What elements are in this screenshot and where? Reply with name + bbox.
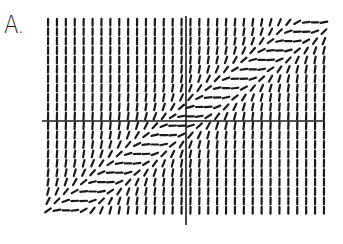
slope-segment bbox=[137, 104, 138, 111]
slope-segment bbox=[187, 125, 194, 127]
slope-segment bbox=[90, 170, 95, 175]
slope-segment bbox=[232, 68, 238, 71]
slope-segment bbox=[181, 57, 182, 64]
slope-segment bbox=[285, 31, 291, 33]
slope-segment bbox=[241, 87, 247, 90]
slope-segment bbox=[172, 75, 173, 82]
slope-segment bbox=[109, 198, 112, 204]
slope-segment bbox=[217, 38, 218, 45]
slope-segment bbox=[188, 95, 192, 100]
slope-segment bbox=[304, 48, 307, 54]
slope-segment bbox=[146, 94, 147, 101]
slope-segment bbox=[143, 144, 150, 145]
slope-segment bbox=[152, 153, 158, 155]
slope-segment bbox=[296, 57, 299, 63]
slope-segment bbox=[180, 142, 184, 148]
slope-segment bbox=[235, 132, 236, 139]
slope-segment bbox=[243, 104, 245, 111]
slope-segment bbox=[197, 123, 202, 128]
slope-segment bbox=[215, 76, 220, 81]
slope-segment bbox=[118, 132, 120, 139]
slope-segment bbox=[89, 200, 95, 202]
slope-segment bbox=[125, 153, 131, 155]
slope-segment bbox=[235, 28, 236, 35]
slope-segment bbox=[128, 104, 129, 111]
slope-segment bbox=[313, 38, 317, 43]
slope-segment bbox=[146, 85, 147, 92]
slope-segment bbox=[57, 160, 58, 167]
slope-segment bbox=[63, 200, 69, 202]
slope-segment bbox=[196, 116, 203, 117]
slope-segment bbox=[286, 57, 291, 62]
slope-segment bbox=[134, 170, 139, 174]
slope-segment bbox=[268, 39, 274, 43]
slope-segment bbox=[235, 19, 236, 26]
slope-segment bbox=[90, 208, 94, 213]
slope-segment bbox=[81, 180, 86, 184]
slope-segment bbox=[270, 19, 272, 26]
slope-segment bbox=[172, 94, 174, 101]
slope-segment bbox=[199, 57, 200, 64]
slope-segment bbox=[108, 161, 114, 165]
slope-segment bbox=[261, 122, 262, 129]
slope-segment bbox=[162, 114, 166, 120]
slope-segment bbox=[323, 47, 325, 54]
slope-segment bbox=[242, 95, 246, 101]
slope-segment bbox=[198, 75, 200, 82]
slope-segment bbox=[276, 40, 283, 41]
slope-segment bbox=[267, 50, 274, 51]
slope-segment bbox=[278, 66, 282, 72]
slope-segment bbox=[145, 179, 147, 186]
slope-segment bbox=[154, 169, 156, 175]
slope-segment bbox=[101, 141, 102, 148]
slope-segment bbox=[180, 94, 183, 100]
slope-segment bbox=[270, 85, 272, 92]
slope-segment bbox=[169, 135, 176, 136]
slope-segment bbox=[162, 160, 165, 166]
slope-segment bbox=[297, 94, 298, 101]
slope-segment bbox=[46, 198, 49, 204]
slope-segment bbox=[323, 57, 324, 64]
slope-segment bbox=[250, 78, 256, 80]
slope-segment bbox=[207, 66, 209, 73]
slope-segment bbox=[134, 143, 140, 146]
slope-segment bbox=[136, 179, 139, 185]
slope-segment bbox=[74, 169, 76, 176]
slope-segment bbox=[296, 66, 298, 73]
slope-segment bbox=[48, 169, 49, 176]
slope-segment bbox=[243, 28, 244, 35]
slope-segment bbox=[277, 29, 282, 34]
slope-segment bbox=[232, 88, 239, 89]
slope-segment bbox=[260, 38, 264, 44]
slope-segment bbox=[100, 207, 103, 213]
slope-segment bbox=[48, 179, 49, 186]
slope-segment bbox=[48, 160, 49, 167]
slope-segment bbox=[190, 57, 191, 64]
slope-segment bbox=[243, 122, 244, 129]
slope-segment bbox=[100, 160, 104, 166]
slope-segment bbox=[83, 160, 85, 167]
slope-segment bbox=[252, 113, 253, 120]
slope-segment bbox=[91, 160, 93, 166]
slope-segment bbox=[128, 113, 129, 120]
slope-segment bbox=[145, 104, 146, 111]
slope-segment bbox=[321, 22, 328, 23]
slope-segment bbox=[303, 22, 310, 23]
slope-segment bbox=[178, 116, 185, 117]
slope-segment bbox=[208, 57, 209, 64]
slope-segment bbox=[226, 38, 227, 45]
slope-segment bbox=[269, 76, 272, 82]
slope-segment bbox=[127, 132, 129, 138]
slope-segment bbox=[74, 151, 75, 158]
slope-segment bbox=[83, 141, 84, 148]
slope-segment bbox=[288, 94, 289, 101]
slope-segment bbox=[116, 163, 123, 164]
slope-segment bbox=[127, 188, 129, 194]
slope-segment bbox=[137, 198, 138, 205]
slope-segment bbox=[294, 41, 301, 42]
slope-segment bbox=[163, 85, 164, 92]
slope-segment bbox=[80, 191, 87, 192]
slope-segment bbox=[234, 38, 235, 45]
slope-segment bbox=[285, 50, 292, 52]
slope-segment bbox=[270, 113, 271, 120]
